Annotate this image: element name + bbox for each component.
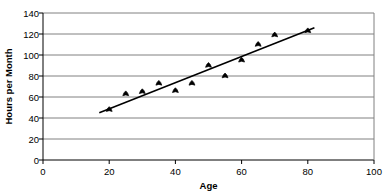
data-point xyxy=(189,80,195,85)
data-point xyxy=(272,32,278,37)
data-point xyxy=(206,63,212,68)
data-point xyxy=(255,42,261,47)
x-axis-title: Age xyxy=(43,180,374,191)
data-point xyxy=(172,88,178,93)
plot-area xyxy=(0,0,390,196)
data-point xyxy=(123,91,129,96)
trend-line xyxy=(99,28,314,113)
data-point xyxy=(156,80,162,85)
data-point xyxy=(305,28,311,33)
axis-lines xyxy=(43,13,374,160)
x-axis-tick-marks xyxy=(43,160,374,164)
y-axis-tick-marks xyxy=(39,13,43,160)
data-point xyxy=(139,89,145,94)
gridlines xyxy=(43,13,374,139)
data-point xyxy=(222,73,228,78)
trend-line-segment xyxy=(99,28,314,113)
scatter-chart: Hours per Month 140 120 100 80 60 40 20 … xyxy=(0,0,390,196)
